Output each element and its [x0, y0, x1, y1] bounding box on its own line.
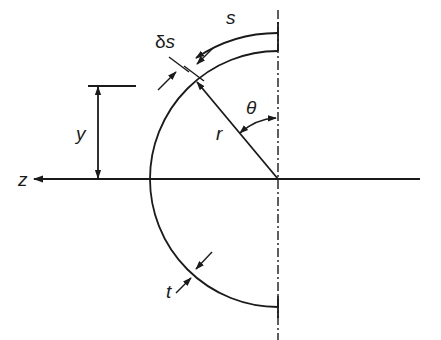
label-delta-s: δs	[155, 31, 176, 52]
delta-s-tick-2	[184, 66, 204, 81]
theta-arc	[240, 118, 276, 133]
semicircular-section-diagram: s δs θ r y z t	[0, 0, 441, 340]
label-t: t	[166, 281, 172, 302]
t-arrow-inner	[176, 278, 191, 293]
s-arc-arrow	[196, 33, 278, 58]
t-arrow-outer	[196, 252, 212, 269]
label-y: y	[74, 123, 87, 144]
label-r: r	[216, 123, 223, 144]
label-z: z	[17, 169, 28, 190]
delta-s-tick-1	[169, 57, 189, 72]
label-theta: θ	[246, 97, 257, 118]
radius-line	[197, 82, 278, 179]
label-delta-s-var: s	[166, 31, 176, 52]
label-s: s	[226, 7, 236, 28]
label-delta: δ	[155, 31, 166, 52]
delta-s-arrow-left	[158, 72, 176, 90]
